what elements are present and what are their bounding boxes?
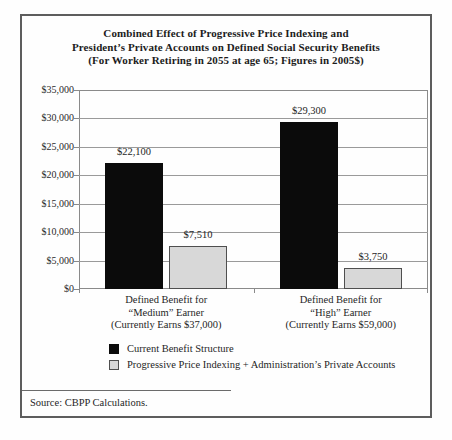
- x-axis-tick: [79, 289, 80, 293]
- bar-current-benefit: [105, 163, 163, 289]
- y-axis-label: $20,000: [24, 169, 74, 180]
- y-axis-label: $0: [24, 283, 74, 294]
- y-axis-label: $10,000: [24, 226, 74, 237]
- bar-value-label: $29,300: [269, 105, 349, 116]
- legend-item: Progressive Price Indexing + Administrat…: [109, 359, 395, 370]
- x-axis-category-line: (Currently Earns $59,000): [251, 319, 431, 332]
- y-axis-label: $5,000: [24, 255, 74, 266]
- x-axis-category-line: Defined Benefit for: [76, 294, 256, 307]
- scanned-chart-page: Combined Effect of Progressive Price Ind…: [0, 0, 452, 440]
- chart-panel: Combined Effect of Progressive Price Ind…: [20, 14, 432, 418]
- x-axis-category-label: Defined Benefit for“High” Earner(Current…: [251, 294, 431, 332]
- legend-item: Current Benefit Structure: [109, 343, 395, 354]
- y-axis-tick: [74, 90, 79, 91]
- x-axis-category-line: “High” Earner: [251, 307, 431, 320]
- legend-label: Progressive Price Indexing + Administrat…: [127, 359, 395, 370]
- source-note: Source: CBPP Calculations.: [30, 397, 148, 408]
- legend-swatch-private-accounts: [109, 360, 119, 370]
- y-axis-tick: [74, 175, 79, 176]
- x-axis-tick: [427, 289, 428, 293]
- y-axis-tick: [74, 204, 79, 205]
- x-axis-category-line: “Medium” Earner: [76, 307, 256, 320]
- y-axis-tick: [74, 232, 79, 233]
- y-axis-label: $25,000: [24, 141, 74, 152]
- y-axis-tick: [74, 261, 79, 262]
- chart-legend: Current Benefit StructureProgressive Pri…: [109, 343, 395, 375]
- x-axis-category-label: Defined Benefit for“Medium” Earner(Curre…: [76, 294, 256, 332]
- bar-value-label: $22,100: [94, 146, 174, 157]
- bar-value-label: $7,510: [158, 229, 238, 240]
- x-axis-tick: [254, 289, 255, 293]
- bar-value-label: $3,750: [333, 251, 413, 262]
- source-divider-line: [22, 390, 231, 391]
- x-axis-category-line: Defined Benefit for: [251, 294, 431, 307]
- x-axis-category-line: (Currently Earns $37,000): [76, 319, 256, 332]
- y-axis-label: $30,000: [24, 112, 74, 123]
- bar-current-benefit: [280, 122, 338, 289]
- y-axis-tick: [74, 147, 79, 148]
- gridline: [79, 118, 428, 119]
- y-axis-tick: [74, 118, 79, 119]
- y-axis-label: $15,000: [24, 198, 74, 209]
- bar-private-accounts: [344, 268, 402, 289]
- bar-private-accounts: [169, 246, 227, 289]
- y-axis-label: $35,000: [24, 84, 74, 95]
- legend-swatch-current-benefit: [109, 344, 119, 354]
- legend-label: Current Benefit Structure: [127, 343, 234, 354]
